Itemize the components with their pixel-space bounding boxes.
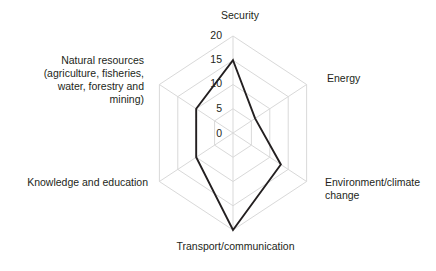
axis-label-knowledge-and-education: Knowledge and education	[8, 176, 148, 189]
tick-label-15: 15	[196, 54, 222, 65]
axis-label-environment-climate-change: Environment/climate change	[325, 176, 436, 202]
axis-label-energy: Energy	[327, 72, 387, 85]
radar-chart: 20 15 10 5 0 Security Energy Environment…	[0, 0, 436, 271]
tick-label-20: 20	[196, 30, 222, 41]
axis-label-security: Security	[205, 9, 275, 22]
axis-label-natural-resources: Natural resources (agriculture, fisherie…	[22, 54, 144, 106]
tick-label-0: 0	[196, 128, 222, 139]
axis-label-transport-communication: Transport/communication	[158, 240, 313, 253]
tick-label-10: 10	[196, 78, 222, 89]
tick-label-5: 5	[196, 103, 222, 114]
grid-spokes	[159, 36, 306, 230]
